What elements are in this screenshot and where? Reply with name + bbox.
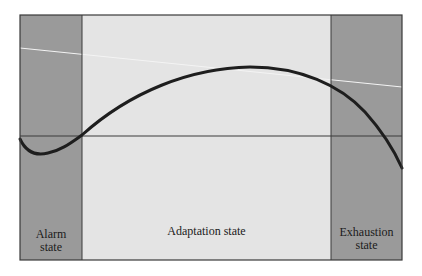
alarm-region [20,15,82,260]
adaptation-label-line1: Adaptation state [82,225,331,238]
alarm-label-line2: state [20,241,82,254]
exhaustion-state-label: Exhaustion state [331,226,402,252]
adaptation-state-label: Adaptation state [82,225,331,238]
exhaustion-label-line2: state [331,239,402,252]
alarm-state-label: Alarm state [20,228,82,254]
exhaustion-region [331,15,402,260]
